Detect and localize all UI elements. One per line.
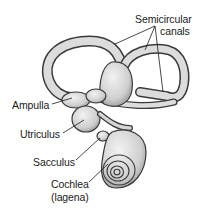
label-sacculus: Sacculus [33,156,75,168]
label-utriculus: Utriculus [20,128,60,140]
posterior-semicircular-canal [124,49,184,98]
label-ampulla: Ampulla [12,99,49,111]
ampulla-structure-2 [86,89,106,103]
label-semicircular-canals-line2: canals [160,25,190,37]
label-cochlea-line1: Cochlea [51,178,89,190]
label-semicircular-canals-line1: Semicircular [135,13,192,25]
utriculus-structure [72,106,100,132]
label-cochlea-line2: (lagena) [51,191,89,203]
